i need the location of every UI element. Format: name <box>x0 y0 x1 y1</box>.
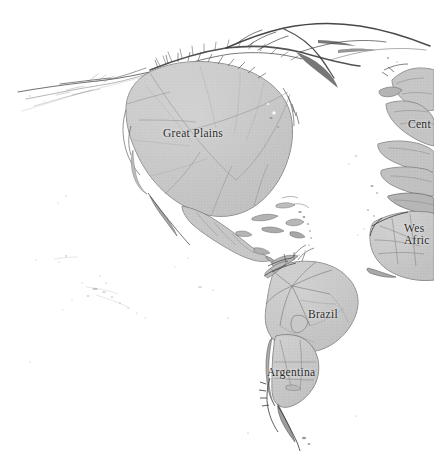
cartogram-figure: Great Plains Brazil Argentina Cent Wes A… <box>0 0 434 454</box>
cartogram-canvas <box>0 0 434 454</box>
